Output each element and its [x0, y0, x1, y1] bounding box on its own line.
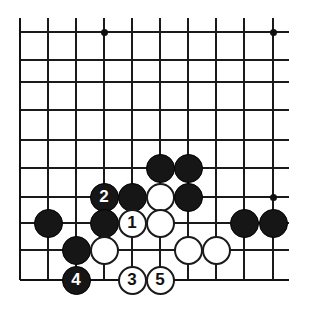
stone-white-move-1: 1	[118, 209, 147, 238]
stone-black	[174, 154, 203, 183]
grid-line-horizontal	[20, 139, 289, 140]
stone-white-move-3: 3	[118, 266, 147, 295]
goban-grid: 21435	[0, 0, 309, 309]
stone-white	[202, 236, 231, 265]
stone-white	[90, 236, 119, 265]
stone-black-move-4: 4	[62, 266, 91, 295]
stone-black	[146, 154, 175, 183]
stone-black-move-2: 2	[90, 183, 119, 212]
stone-black	[259, 209, 288, 238]
stone-move-number: 4	[71, 271, 80, 289]
stone-white	[146, 183, 175, 212]
stone-black	[174, 183, 203, 212]
stone-move-number: 3	[127, 271, 136, 289]
stone-move-number: 1	[127, 214, 136, 232]
grid-line-vertical	[131, 18, 132, 280]
stone-white	[146, 209, 175, 238]
grid-line-vertical	[272, 18, 273, 280]
stone-black	[34, 209, 63, 238]
grid-line-horizontal	[20, 249, 289, 250]
star-point	[270, 194, 277, 201]
stone-move-number: 5	[155, 271, 164, 289]
grid-line-vertical	[19, 18, 22, 280]
stone-white	[174, 236, 203, 265]
stone-black	[118, 183, 147, 212]
grid-line-vertical	[243, 18, 244, 280]
grid-line-horizontal	[20, 31, 289, 32]
stone-move-number: 2	[99, 188, 108, 206]
grid-line-horizontal	[20, 109, 289, 110]
grid-line-vertical	[159, 18, 160, 280]
grid-line-horizontal	[20, 81, 289, 82]
grid-line-vertical	[47, 18, 48, 280]
stone-black	[230, 209, 259, 238]
grid-line-horizontal	[20, 59, 289, 60]
stone-white-move-5: 5	[146, 266, 175, 295]
star-point	[101, 29, 108, 36]
stone-black	[90, 209, 119, 238]
stone-black	[62, 236, 91, 265]
star-point	[270, 29, 277, 36]
go-board-diagram: 21435	[0, 0, 309, 309]
